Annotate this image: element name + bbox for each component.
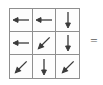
equals-sign: = (88, 34, 100, 48)
grid-cell-r1c1[interactable] (33, 32, 56, 55)
arrow-down-icon (57, 9, 79, 31)
arrow-down-icon (57, 32, 79, 54)
grid-cell-r0c0[interactable] (10, 9, 33, 32)
arrow-left-icon (10, 32, 32, 54)
grid-cell-r1c2[interactable] (56, 32, 79, 55)
arrow-left-icon (10, 9, 32, 31)
grid-cell-r0c2[interactable] (56, 9, 79, 32)
grid-cell-r0c1[interactable] (33, 9, 56, 32)
arrow-down-left-icon (33, 32, 55, 54)
grid-cell-r2c2[interactable] (56, 55, 79, 78)
arrow-left-icon (33, 9, 55, 31)
grid-cell-r1c0[interactable] (10, 32, 33, 55)
grid-cell-r2c0[interactable] (10, 55, 33, 78)
arrow-down-left-icon (10, 56, 32, 78)
vector-field-figure: = (0, 0, 103, 85)
vector-field-grid (9, 8, 80, 79)
grid-cell-r2c1[interactable] (33, 55, 56, 78)
arrow-down-left-icon (57, 56, 79, 78)
arrow-down-icon (33, 56, 55, 78)
